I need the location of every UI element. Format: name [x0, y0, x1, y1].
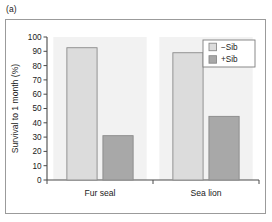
bar [209, 116, 239, 180]
y-tick-label: 0 [37, 176, 42, 185]
legend-label: −Sib [221, 43, 238, 52]
bar-chart: 0102030405060708090100 Fur sealSea lion … [5, 19, 266, 214]
y-axis-ticks: 0102030405060708090100 [28, 33, 47, 185]
x-axis-ticks [47, 180, 259, 184]
x-axis-category-label: Sea lion [190, 188, 221, 198]
y-tick-label: 50 [32, 104, 42, 113]
figure-panel: (a) 0102030405060708090100 Fur sealSea l… [0, 0, 272, 222]
y-tick-label: 80 [32, 62, 42, 71]
legend-label: +Sib [221, 55, 238, 64]
y-tick-label: 70 [32, 76, 42, 85]
y-tick-label: 60 [32, 90, 42, 99]
x-axis-category-label: Fur seal [84, 188, 115, 198]
legend: −Sib+Sib [203, 40, 255, 67]
y-tick-label: 90 [32, 47, 42, 56]
y-tick-label: 30 [32, 133, 42, 142]
bar [103, 136, 133, 180]
legend-swatch [209, 56, 217, 64]
x-axis-category-labels: Fur sealSea lion [84, 188, 221, 198]
y-axis-title: Survival to 1 month (%) [10, 64, 20, 153]
bar [173, 53, 203, 180]
y-tick-label: 10 [32, 162, 42, 171]
panel-label: (a) [6, 4, 17, 14]
y-tick-label: 40 [32, 119, 42, 128]
y-tick-label: 20 [32, 147, 42, 156]
legend-swatch [209, 43, 217, 51]
bar [67, 48, 97, 180]
y-tick-label: 100 [28, 33, 42, 42]
